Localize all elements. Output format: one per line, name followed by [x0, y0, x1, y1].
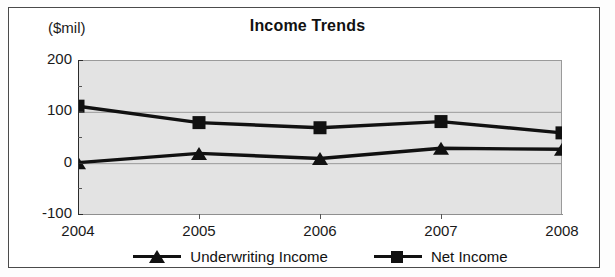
y-tick-mark-minor: [78, 188, 82, 189]
y-tick-mark: [78, 111, 83, 112]
y-tick-label: 200: [47, 50, 72, 67]
data-point-marker: [435, 115, 448, 128]
y-tick-label: 0: [64, 153, 72, 170]
x-tick-mark: [441, 214, 442, 219]
y-tick-mark: [78, 60, 83, 61]
y-tick-mark: [78, 214, 83, 215]
x-tick-label-2004: 2004: [61, 222, 94, 239]
x-tick-mark: [320, 214, 321, 219]
y-tick-mark-minor: [78, 137, 82, 138]
x-tick-label-2005: 2005: [182, 222, 215, 239]
legend-item-net-income[interactable]: Net Income: [374, 248, 508, 265]
y-tick-mark: [78, 163, 83, 164]
data-point-marker: [314, 121, 327, 134]
y-tick-mark-minor: [78, 86, 82, 87]
x-tick-mark: [199, 214, 200, 219]
triangle-marker-icon: [149, 250, 165, 263]
y-tick-label: 100: [47, 101, 72, 118]
plot-area: [78, 60, 562, 214]
legend-label: Underwriting Income: [190, 248, 328, 265]
square-marker-icon: [391, 251, 403, 263]
chart-legend: Underwriting IncomeNet Income: [78, 244, 563, 268]
x-tick-label-2008: 2008: [545, 222, 578, 239]
x-tick-label-2006: 2006: [303, 222, 336, 239]
legend-item-underwriting-income[interactable]: Underwriting Income: [133, 248, 328, 265]
x-tick-label-2007: 2007: [424, 222, 457, 239]
chart-figure: ($mil) Income Trends -1000100200 2004200…: [0, 0, 615, 277]
legend-swatch: [133, 248, 181, 264]
data-point-marker: [193, 116, 206, 129]
legend-label: Net Income: [431, 248, 508, 265]
data-point-marker: [556, 126, 563, 139]
plot-svg: [78, 61, 562, 215]
y-tick-label: -100: [42, 204, 72, 221]
legend-swatch: [374, 248, 422, 264]
chart-title: Income Trends: [0, 17, 615, 35]
